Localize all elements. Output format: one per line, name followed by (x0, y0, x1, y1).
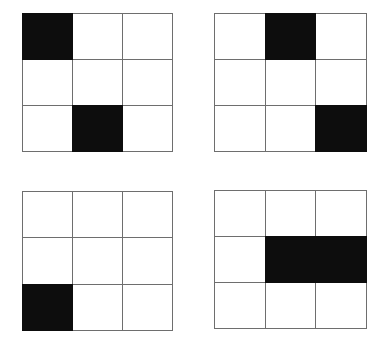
grid-cell[interactable] (215, 106, 265, 151)
grid-cell[interactable] (123, 238, 172, 283)
grid-cell[interactable] (215, 14, 265, 59)
grid-panel-bottom-right (214, 190, 367, 329)
grid-cell[interactable] (266, 237, 316, 282)
grid-cell[interactable] (266, 14, 316, 59)
grid-cell[interactable] (316, 14, 366, 59)
grid-cell[interactable] (123, 106, 172, 151)
grid-cell[interactable] (73, 14, 122, 59)
grid-cell[interactable] (316, 106, 366, 151)
grid-cell[interactable] (316, 60, 366, 105)
grid-cell[interactable] (316, 191, 366, 236)
grid-cell[interactable] (23, 106, 72, 151)
grid-cell[interactable] (23, 285, 72, 330)
grid-cell[interactable] (266, 60, 316, 105)
grid-cell[interactable] (316, 237, 366, 282)
grid-cell[interactable] (215, 60, 265, 105)
grid-cell[interactable] (215, 283, 265, 328)
grid-cell[interactable] (23, 60, 72, 105)
grid-cell[interactable] (215, 237, 265, 282)
grid-cell[interactable] (123, 60, 172, 105)
grid-cell[interactable] (266, 106, 316, 151)
grid-cell[interactable] (73, 60, 122, 105)
grid-cell[interactable] (123, 192, 172, 237)
grid-cell[interactable] (215, 191, 265, 236)
grid-cell[interactable] (23, 192, 72, 237)
grid-cell[interactable] (316, 283, 366, 328)
grid-cell[interactable] (73, 238, 122, 283)
figure-canvas (0, 0, 386, 349)
grid-cell[interactable] (266, 283, 316, 328)
grid-cell[interactable] (266, 191, 316, 236)
grid-cell[interactable] (23, 238, 72, 283)
grid-cell[interactable] (73, 285, 122, 330)
grid-panel-top-right (214, 13, 367, 152)
grid-panel-bottom-left (22, 191, 173, 331)
grid-cell[interactable] (23, 14, 72, 59)
grid-cell[interactable] (123, 285, 172, 330)
grid-panel-top-left (22, 13, 173, 152)
grid-cell[interactable] (73, 106, 122, 151)
grid-cell[interactable] (73, 192, 122, 237)
grid-cell[interactable] (123, 14, 172, 59)
